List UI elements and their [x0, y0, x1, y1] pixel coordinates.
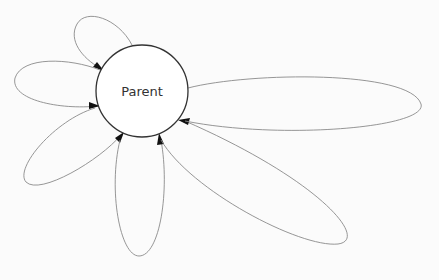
self-loop-edge-down[interactable] — [115, 140, 164, 256]
self-loop-edge-right[interactable] — [185, 77, 421, 131]
diagram-canvas: Parent — [0, 0, 439, 280]
self-loop-edge-left[interactable] — [15, 61, 100, 107]
node-parent-label: Parent — [121, 84, 163, 99]
self-loop-edge-lower-right[interactable] — [161, 121, 347, 244]
